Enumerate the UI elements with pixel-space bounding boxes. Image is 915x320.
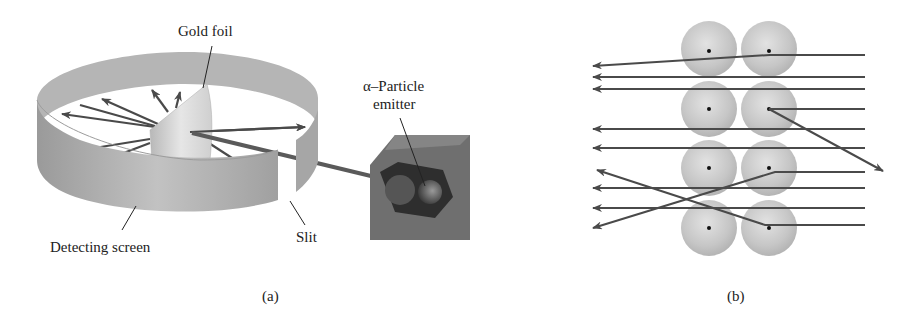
panel-a (37, 46, 470, 240)
emitter-label-line1: α–Particle (363, 79, 424, 95)
detecting-screen-label: Detecting screen (50, 240, 150, 256)
emitter-label-line2: emitter (373, 97, 415, 113)
detecting-screen-right (296, 110, 318, 192)
alpha-particle-emitter (370, 135, 470, 240)
panel-b (593, 21, 883, 256)
panel-b-caption: (b) (727, 288, 745, 305)
slit-label: Slit (296, 230, 317, 246)
rutherford-experiment-diagram (0, 0, 915, 320)
gold-foil (150, 84, 212, 163)
panel-a-caption: (a) (262, 288, 279, 305)
gold-foil-label: Gold foil (178, 24, 233, 40)
alpha-particle-paths (593, 55, 883, 228)
